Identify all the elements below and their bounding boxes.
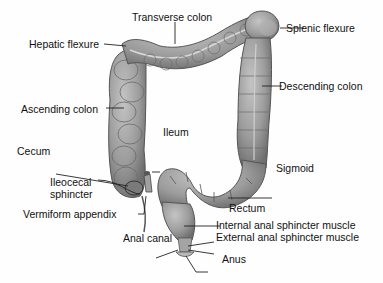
label-splenic-flexure: Splenic flexure bbox=[286, 22, 355, 34]
label-ileocecal-sphincter-1: Ileocecal bbox=[50, 176, 91, 188]
descending-colon-shape bbox=[237, 38, 271, 168]
label-anus: Anus bbox=[222, 253, 246, 265]
label-ileum: Ileum bbox=[163, 126, 189, 138]
sigmoid-shape bbox=[158, 160, 266, 208]
label-external-anal-sphincter: External anal sphincter muscle bbox=[216, 231, 359, 243]
ascending-colon-shape bbox=[109, 48, 146, 197]
splenic-flexure-shape bbox=[245, 11, 279, 41]
label-vermiform-appendix: Vermiform appendix bbox=[23, 208, 116, 220]
label-cecum: Cecum bbox=[17, 145, 50, 157]
label-sigmoid: Sigmoid bbox=[276, 162, 314, 174]
label-descending-colon: Descending colon bbox=[279, 80, 362, 92]
label-rectum: Rectum bbox=[229, 202, 265, 214]
label-ascending-colon: Ascending colon bbox=[21, 103, 98, 115]
rectum-shape bbox=[162, 202, 195, 257]
label-anal-canal: Anal canal bbox=[123, 232, 172, 244]
label-internal-anal-sphincter: Internal anal sphincter muscle bbox=[216, 219, 356, 231]
label-transverse-colon: Transverse colon bbox=[132, 11, 212, 23]
label-ileocecal-sphincter-2: sphincter bbox=[50, 188, 93, 200]
label-hepatic-flexure: Hepatic flexure bbox=[29, 38, 99, 50]
colon-diagram: Transverse colon Hepatic flexure Splenic… bbox=[0, 0, 383, 283]
